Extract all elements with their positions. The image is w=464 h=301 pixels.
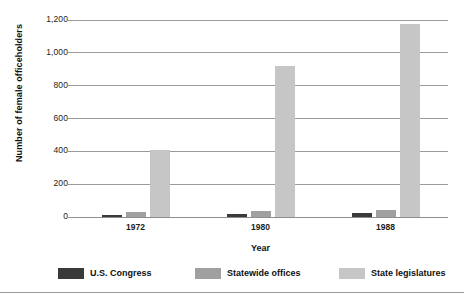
x-axis-tick-labels: 197219801988 [73,222,448,236]
legend-label: Statewide offices [227,268,301,278]
bar-1988-u-s-congress [352,213,372,217]
y-tick-mark [68,118,73,119]
y-tick-label: 600 [6,114,68,123]
y-tick-label: 1,200 [6,15,68,24]
bar-1972-state-legislatures [150,150,170,217]
bar-1988-statewide-offices [376,210,396,217]
legend-label: U.S. Congress [90,268,152,278]
plot-area [73,20,448,217]
bar-1972-statewide-offices [126,212,146,217]
legend-swatch-icon [58,268,84,279]
y-tick-mark [68,52,73,53]
y-tick-label: 200 [6,179,68,188]
y-axis-tick-labels: 02004006008001,0001,200 [0,20,68,217]
y-tick-mark [68,184,73,185]
legend-label: State legislatures [371,268,446,278]
y-tick-label: 800 [6,81,68,90]
bar-group-1980 [198,20,323,217]
y-tick-label: 400 [6,146,68,155]
bar-1980-state-legislatures [275,66,295,217]
legend-item-u-s-congress[interactable]: U.S. Congress [58,266,152,280]
x-tick-label-1972: 1972 [96,222,176,232]
x-tick-label-1980: 1980 [221,222,301,232]
x-tick-label-1988: 1988 [346,222,426,232]
bar-group-1972 [73,20,198,217]
legend-swatch-icon [339,268,365,279]
legend-item-state-legislatures[interactable]: State legislatures [339,266,446,280]
y-tick-label: 1,000 [6,48,68,57]
bar-1988-state-legislatures [400,24,420,217]
x-axis-title: Year [73,243,448,253]
bar-1972-u-s-congress [102,215,122,217]
chart-figure: Number of female officeholders 020040060… [0,0,464,301]
legend-swatch-icon [195,268,221,279]
bar-1980-u-s-congress [227,214,247,217]
bar-1980-statewide-offices [251,211,271,217]
chart-legend: U.S. CongressStatewide officesState legi… [58,266,454,282]
y-tick-mark [68,217,73,218]
y-tick-mark [68,151,73,152]
legend-item-statewide-offices[interactable]: Statewide offices [195,266,301,280]
y-tick-mark [68,20,73,21]
y-tick-label: 0 [6,212,68,221]
bottom-divider [0,292,464,293]
bar-group-1988 [323,20,448,217]
y-tick-mark [68,85,73,86]
